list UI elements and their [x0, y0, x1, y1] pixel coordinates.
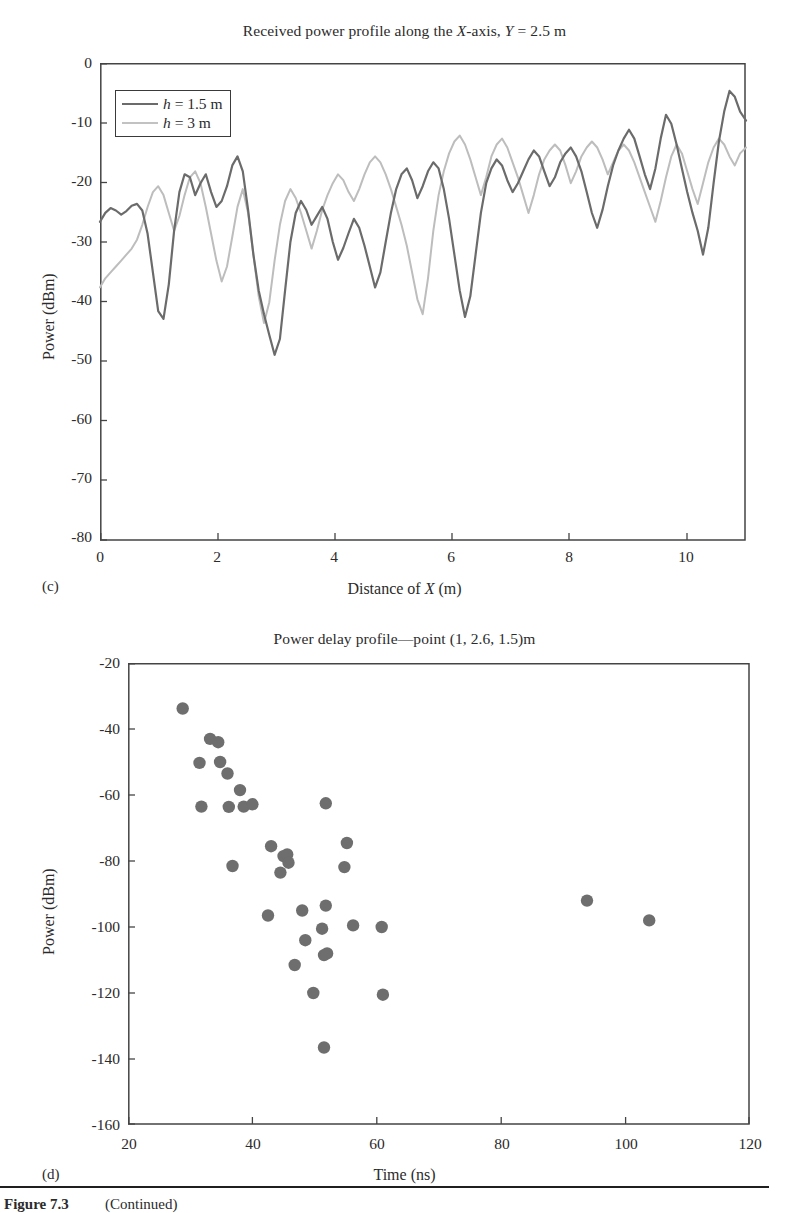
scatter-point [643, 914, 655, 926]
panel-d-xlabel: Time (ns) [0, 1166, 809, 1184]
scatter-point [195, 800, 207, 812]
panel-c-ytick-4: -40 [50, 291, 92, 309]
panel-d-ytick-3: -80 [58, 852, 120, 870]
legend-swatch-h3 [122, 122, 158, 124]
scatter-point [307, 987, 319, 999]
panel-c-legend: h = 1.5 m h = 3 m [115, 90, 231, 137]
caption-divider [0, 1186, 769, 1188]
panel-c-ylabel: Power (dBm) [40, 273, 58, 360]
scatter-point [289, 959, 301, 971]
scatter-point [318, 1041, 330, 1053]
legend-label-h3: h = 3 m [163, 114, 211, 132]
panel-d-ytick-6: -140 [58, 1050, 120, 1068]
panel-d-ytick-2: -60 [58, 786, 120, 804]
scatter-point [347, 919, 359, 931]
panel-c-xtick-1: 2 [199, 548, 235, 566]
scatter-point [212, 736, 224, 748]
panel-d-title: Power delay profile—point (1, 2.6, 1.5)m [0, 630, 809, 648]
scatter-point [223, 801, 235, 813]
scatter-point [377, 989, 389, 1001]
legend-item-h15: h = 1.5 m [122, 94, 223, 113]
series-h3-line [100, 136, 746, 324]
scatter-point [274, 866, 286, 878]
scatter-point [320, 797, 332, 809]
panel-d: Power delay profile—point (1, 2.6, 1.5)m… [0, 610, 809, 1170]
panel-d-xtick-3: 80 [483, 1135, 521, 1153]
scatter-point [341, 837, 353, 849]
panel-d-xtick-1: 40 [234, 1135, 272, 1153]
scatter-point [214, 756, 226, 768]
panel-d-ytick-1: -40 [58, 720, 120, 738]
scatter-point [193, 757, 205, 769]
scatter-point [296, 904, 308, 916]
panel-c-xtick-5: 10 [668, 548, 704, 566]
panel-c-ytick-3: -30 [50, 232, 92, 250]
panel-c-ytick-5: -50 [50, 350, 92, 368]
scatter-point [316, 923, 328, 935]
figure-caption: Figure 7.3 (Continued) [0, 1198, 400, 1213]
scatter-point [581, 894, 593, 906]
figure-container: Received power profile along the X-axis,… [0, 0, 809, 1213]
panel-c-ytick-2: -20 [50, 172, 92, 190]
panel-c-xtick-4: 8 [551, 548, 587, 566]
panel-c-ytick-8: -80 [50, 528, 92, 546]
panel-c-letter: (c) [42, 578, 59, 595]
panel-c-xlabel: Distance of X (m) [0, 580, 809, 598]
legend-swatch-h15 [122, 103, 158, 105]
caption-note: (Continued) [105, 1198, 178, 1213]
panel-d-ytick-4: -100 [58, 918, 120, 936]
panel-c-ytick-0: 0 [50, 54, 92, 72]
panel-c-ytick-7: -70 [50, 469, 92, 487]
panel-d-ytick-0: -20 [58, 654, 120, 672]
panel-d-xtick-5: 120 [731, 1135, 769, 1153]
scatter-point [221, 767, 233, 779]
panel-c: Received power profile along the X-axis,… [0, 0, 809, 610]
scatter-point [246, 798, 258, 810]
legend-label-h15: h = 1.5 m [163, 95, 223, 113]
panel-d-letter: (d) [42, 1166, 60, 1183]
scatter-point [376, 921, 388, 933]
scatter-point [262, 909, 274, 921]
panel-d-ytick-5: -120 [58, 984, 120, 1002]
panel-d-xtick-0: 20 [110, 1135, 148, 1153]
panel-d-ytick-7: -160 [58, 1116, 120, 1134]
panel-c-ytick-1: -10 [50, 113, 92, 131]
panel-d-xtick-2: 60 [358, 1135, 396, 1153]
panel-c-ytick-6: -60 [50, 410, 92, 428]
panel-c-xtick-3: 6 [433, 548, 469, 566]
panel-c-xtick-2: 4 [316, 548, 352, 566]
scatter-point [234, 784, 246, 796]
scatter-point [321, 947, 333, 959]
scatter-point [282, 857, 294, 869]
panel-c-xtick-0: 0 [82, 548, 118, 566]
caption-label: Figure 7.3 [4, 1198, 69, 1213]
scatter-point [265, 840, 277, 852]
scatter-point [177, 702, 189, 714]
scatter-point [320, 899, 332, 911]
scatter-point [226, 860, 238, 872]
scatter-point [338, 861, 350, 873]
panel-d-xtick-4: 100 [607, 1135, 645, 1153]
scatter-points [177, 702, 656, 1053]
panel-d-ylabel: Power (dBm) [40, 868, 58, 955]
scatter-point [299, 934, 311, 946]
legend-item-h3: h = 3 m [122, 113, 223, 132]
panel-d-plot [128, 663, 750, 1125]
panel-c-title: Received power profile along the X-axis,… [0, 22, 809, 40]
